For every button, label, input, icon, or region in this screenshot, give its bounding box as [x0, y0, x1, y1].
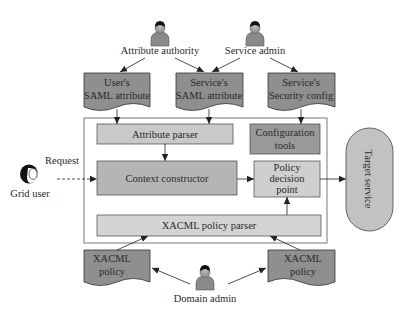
attribute-parser-box: Attribute parser — [97, 124, 233, 144]
actor-to-document-arrows — [120, 58, 298, 72]
svg-text:SAML attribute: SAML attribute — [176, 90, 243, 101]
domain-admin-actor: Domain admin — [174, 265, 237, 304]
xacml-policy-parser-box: XACML policy parser — [97, 215, 321, 236]
person-icon — [196, 265, 214, 290]
person-icon — [151, 21, 169, 46]
svg-text:decision: decision — [270, 173, 306, 184]
context-constructor-box: Context constructor — [97, 161, 237, 195]
policy-decision-point-box: Policy decision point — [254, 161, 320, 197]
svg-text:Attribute parser: Attribute parser — [132, 129, 199, 140]
user-head-icon — [20, 165, 38, 184]
target-service: Target service — [346, 128, 393, 231]
grid-user-actor: Grid user — [10, 165, 50, 200]
xacml-policy-document-left: XACML policy — [84, 250, 150, 286]
attribute-authority-actor: Attribute authority — [121, 21, 200, 56]
svg-text:point: point — [276, 184, 298, 195]
svg-text:Context constructor: Context constructor — [125, 173, 209, 184]
svg-text:XACML: XACML — [284, 253, 322, 264]
configuration-tools-box: Configuration tools — [250, 124, 320, 154]
svg-text:XACML: XACML — [93, 253, 131, 264]
svg-text:SAML attribute: SAML attribute — [84, 90, 151, 101]
svg-text:Service's: Service's — [190, 77, 227, 88]
person-icon — [246, 21, 264, 46]
svg-text:Security config: Security config — [269, 90, 334, 101]
svg-text:tools: tools — [275, 140, 295, 151]
xacml-policy-document-right: XACML policy — [268, 250, 335, 286]
svg-text:policy: policy — [99, 266, 126, 277]
services-security-config-document: Service's Security config — [268, 73, 335, 111]
svg-text:policy: policy — [290, 266, 317, 277]
services-saml-attribute-document: Service's SAML attribute — [176, 73, 243, 111]
svg-text:Target service: Target service — [363, 150, 374, 209]
grid-user-label: Grid user — [10, 188, 50, 199]
service-admin-label: Service admin — [225, 45, 286, 56]
users-saml-attribute-document: User's SAML attribute — [84, 73, 151, 111]
attribute-authority-label: Attribute authority — [121, 45, 200, 56]
svg-text:Service's: Service's — [282, 77, 319, 88]
architecture-diagram: Attribute authority Service admin User's… — [0, 0, 405, 311]
request-label: Request — [45, 155, 79, 166]
domain-admin-label: Domain admin — [174, 293, 237, 304]
svg-text:Policy: Policy — [274, 162, 302, 173]
svg-text:Configuration: Configuration — [256, 127, 316, 138]
service-admin-actor: Service admin — [225, 21, 286, 56]
svg-text:XACML policy parser: XACML policy parser — [162, 220, 257, 231]
svg-text:User's: User's — [104, 77, 130, 88]
